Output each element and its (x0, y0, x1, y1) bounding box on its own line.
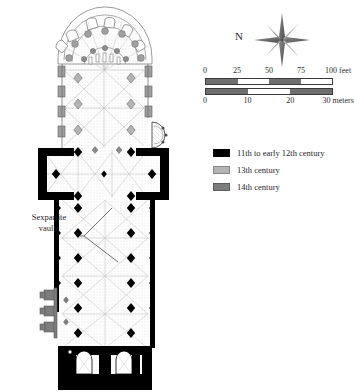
scale-bar-meters (205, 88, 333, 95)
annotation-line-1: Sexpartite (14, 212, 84, 223)
scale-feet-tick-50: 50 (265, 66, 273, 75)
scale-meters-unit-label: 30 meters (322, 96, 353, 105)
scale-bar-segment (269, 79, 301, 84)
sexpartite-vaults-annotation: Sexpartite vaults (14, 212, 84, 234)
legend-swatch-11th-12th-century (213, 149, 230, 157)
scale-bar-segment (206, 89, 248, 94)
scale-feet-unit-label: 100 feet (325, 66, 351, 75)
scale-bar-feet (205, 78, 333, 85)
legend-item-14th-century: 14th century (213, 180, 337, 194)
scale-bar-segment (290, 89, 332, 94)
scale-bar-segment (206, 79, 238, 84)
chronology-legend: 11th to early 12th century 13th century … (213, 146, 337, 197)
map-apparatus: N (200, 0, 337, 200)
cathedral-plan-drawing (0, 0, 200, 392)
legend-label-14th-century: 14th century (237, 182, 280, 192)
west-aisle-chapels-14c (40, 288, 57, 338)
scale-feet-tick-25: 25 (233, 66, 241, 75)
compass-rose-icon (253, 12, 311, 68)
annotation-line-2: vaults (14, 223, 84, 234)
legend-item-11th-12th-century: 11th to early 12th century (213, 146, 337, 160)
compass-group: N (235, 12, 315, 68)
legend-swatch-14th-century (213, 183, 230, 191)
compass-north-label: N (235, 30, 243, 42)
scale-feet-tick-75: 75 (297, 66, 305, 75)
legend-swatch-13th-century (213, 166, 230, 174)
scale-feet-ticks: 0 25 50 75 100 feet (205, 66, 333, 78)
scale-meters-tick-10: 10 (244, 96, 252, 105)
legend-label-13th-century: 13th century (237, 165, 280, 175)
west-towers-block (58, 346, 152, 390)
legend-item-13th-century: 13th century (213, 163, 337, 177)
scale-feet-tick-0: 0 (203, 66, 207, 75)
scale-block: 0 25 50 75 100 feet 0 10 20 30 meters (205, 66, 333, 108)
scale-meters-tick-0: 0 (203, 96, 207, 105)
scale-meters-ticks: 0 10 20 30 meters (205, 96, 333, 108)
scale-meters-tick-20: 20 (286, 96, 294, 105)
legend-label-11th-12th-century: 11th to early 12th century (237, 148, 325, 158)
transept-east-chapel (152, 122, 168, 148)
